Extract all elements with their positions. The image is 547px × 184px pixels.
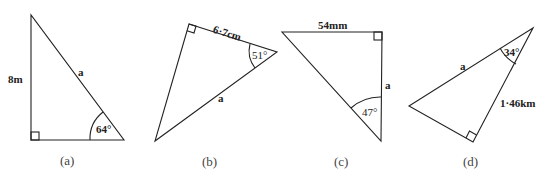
caption-b: (b) bbox=[202, 155, 217, 168]
side-label-a: 8m bbox=[8, 74, 23, 85]
right-angle-marker-c bbox=[374, 32, 382, 40]
angle-label-d: 34° bbox=[504, 47, 519, 58]
triangle-diagrams: 8m a 64° (a) 6·7cm a 51° (b) 54mm a 47° … bbox=[0, 0, 547, 184]
right-angle-marker-d bbox=[466, 131, 477, 138]
hypotenuse-label-d: a bbox=[460, 61, 466, 72]
side-label-d: 1·46km bbox=[500, 98, 535, 109]
side-label-c: 54mm bbox=[318, 20, 347, 31]
caption-a: (a) bbox=[60, 154, 74, 167]
unknown-label-c: a bbox=[385, 80, 391, 91]
caption-c: (c) bbox=[334, 155, 348, 168]
angle-label-c: 47° bbox=[362, 107, 377, 118]
angle-label-b: 51° bbox=[252, 50, 267, 61]
triangle-b bbox=[155, 24, 277, 141]
hypotenuse-label-b: a bbox=[218, 93, 224, 104]
angle-label-a: 64° bbox=[96, 124, 111, 135]
caption-d: (d) bbox=[463, 155, 478, 168]
right-angle-marker-a bbox=[31, 132, 39, 140]
hypotenuse-label-a: a bbox=[78, 67, 84, 78]
triangle-c bbox=[282, 32, 382, 141]
